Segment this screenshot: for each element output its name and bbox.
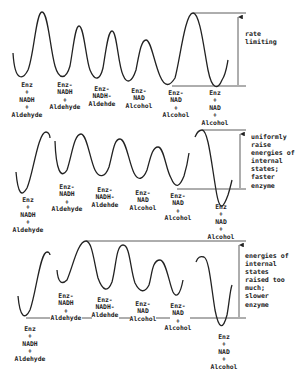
panel-3-state-1: Enz + NADH + Aldehyde	[15, 326, 46, 363]
panel-3-state-4: Enz- NAD Alcohol	[130, 301, 157, 323]
panel-2-state-1: Enz + NADH + Aldehyde	[13, 197, 44, 234]
panel-2-curve	[16, 130, 232, 206]
panel-1-state-6: Enz + NAD + Alcohol	[202, 90, 229, 127]
panel-3-state-5: Enz- NAD + Alcohol	[165, 303, 192, 333]
panel-1-annotation: rate limiting	[245, 30, 277, 46]
panel-3-state-2: Enz- NADH + Aldehyde	[51, 293, 82, 323]
panel-1-state-2: Enz- NADH + Aldehyde	[50, 82, 81, 112]
energy-profile-diagram: Enz + NADH + Aldehyde Enz- NADH + Aldehy…	[0, 0, 299, 372]
panel-2-state-6: Enz + NAD + Alcohol	[208, 204, 235, 241]
panel-1-state-4: Enz- NAD Alcohol	[126, 88, 153, 110]
panel-2-state-4: Enz- NAD Alcohol	[130, 190, 157, 212]
panel-1-curve	[13, 12, 228, 87]
panel-1-state-1: Enz + NADH + Aldehyde	[12, 82, 43, 119]
panel-2-annotation: uniformly raise energies of internal sta…	[251, 133, 295, 190]
panel-2-state-5: Enz- NAD + Alcohol	[165, 193, 192, 223]
panel-3-state-6: Enz + NAD + Alcohol	[211, 334, 238, 371]
panel-3-state-3: Enz- NADH- Aldehde	[92, 297, 119, 319]
panel-3-annotation: energies of internal states raised too m…	[245, 252, 289, 309]
panel-2-state-2: Enz- NADH + Aldehyde	[52, 184, 83, 214]
panel-1-state-3: Enz- NADH- Aldehde	[89, 86, 116, 108]
panel-1-state-5: Enz- NAD + Alcohol	[163, 90, 190, 120]
panel-2-state-3: Enz- NADH- Aldehde	[92, 187, 119, 209]
